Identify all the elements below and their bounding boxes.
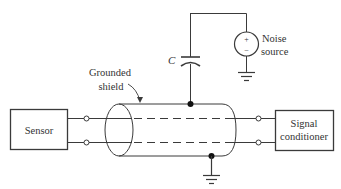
signal-conditioner-label-line1: Signal [291,118,318,129]
left-lower-terminal [84,140,89,145]
signal-conditioner-label-line2: conditioner [280,131,328,142]
capacitor-label: C [168,54,176,66]
ground-icon-shield [203,156,220,184]
shielded-cable-diagram: + − Sensor Signal conditioner Noise sour… [0,0,341,189]
shield-label-line2: shield [98,81,124,92]
shield-label-line1: Grounded [89,67,132,78]
noise-source-label-line2: source [261,46,289,57]
shield-top-junction-dot [188,101,194,107]
shield-end-ellipse [105,104,133,156]
right-upper-terminal [256,116,261,121]
shield-pointer-arrow [128,84,143,103]
noise-minus-sign: − [244,46,249,55]
noise-source-label-line1: Noise [262,33,287,44]
sensor-label: Sensor [25,125,54,136]
noise-plus-sign: + [244,35,249,44]
left-upper-terminal [84,116,89,121]
right-lower-terminal [256,140,261,145]
shield-body [119,104,236,156]
ground-icon-noise [238,73,255,81]
